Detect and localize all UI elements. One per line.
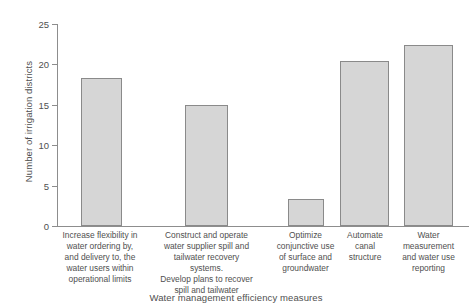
x-category-label-line: reporting (391, 263, 466, 274)
x-category-label-line: water ordering by, (54, 241, 146, 252)
x-category-label-line: and delivery to, the (54, 252, 146, 263)
x-category-label-line: of surface and (263, 252, 348, 263)
x-axis-category-labels: Increase flexibility inwater ordering by… (57, 230, 466, 290)
y-tick-mark (52, 186, 57, 187)
bar-chart: Number of irrigation districts 051015202… (0, 0, 472, 308)
x-category-label-line: Develop plans to recover (157, 274, 256, 285)
y-tick-label: 0 (44, 221, 49, 232)
x-category-label: Watermeasurementand water usereporting (391, 230, 466, 274)
bar[interactable] (404, 45, 453, 226)
x-axis-line (55, 226, 469, 227)
x-category-label-line: groundwater (263, 263, 348, 274)
bar[interactable] (288, 199, 324, 226)
x-category-label-line: structure (343, 252, 387, 263)
x-category-label-line: Construct and operate (157, 230, 256, 241)
y-tick-mark (52, 105, 57, 106)
x-category-label-line: water supplier spill and (157, 241, 256, 252)
x-category-label: Automatecanalstructure (343, 230, 387, 263)
x-category-label-line: tailwater recovery systems. (157, 252, 256, 274)
x-category-label: Increase flexibility inwater ordering by… (54, 230, 146, 285)
bar[interactable] (81, 78, 122, 226)
y-tick-mark (52, 145, 57, 146)
y-tick-mark (52, 226, 57, 227)
x-category-label-line: operational limits (54, 274, 146, 285)
x-category-label-line: conjunctive use (263, 241, 348, 252)
x-axis-title: Water management efficiency measures (0, 292, 472, 303)
x-category-label-line: Increase flexibility in (54, 230, 146, 241)
x-category-label-line: Optimize (263, 230, 348, 241)
y-tick-label: 5 (44, 180, 49, 191)
x-category-label-line: and water use (391, 252, 466, 263)
y-tick-label: 20 (38, 59, 49, 70)
y-tick-label: 25 (38, 19, 49, 30)
x-category-label-line: measurement (391, 241, 466, 252)
x-category-label-line: Water (391, 230, 466, 241)
bar[interactable] (185, 105, 228, 226)
x-category-label: Construct and operatewater supplier spil… (157, 230, 256, 297)
bars-group (57, 24, 466, 226)
y-tick-mark (52, 24, 57, 25)
y-tick-mark (52, 64, 57, 65)
x-category-label-line: water users within (54, 263, 146, 274)
plot-area: 0510152025 (57, 24, 466, 226)
bar[interactable] (340, 61, 389, 226)
x-category-label-line: canal (343, 241, 387, 252)
y-tick-label: 10 (38, 140, 49, 151)
x-category-label-line: Automate (343, 230, 387, 241)
y-tick-label: 15 (38, 99, 49, 110)
y-axis-title: Number of irrigation districts (23, 32, 34, 212)
x-category-label: Optimizeconjunctive useof surface andgro… (263, 230, 348, 274)
